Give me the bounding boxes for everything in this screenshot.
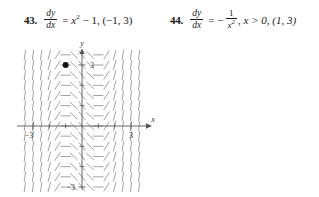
x-tick-label-neg3: −3: [25, 131, 34, 140]
derivative-denominator: dx: [190, 20, 203, 30]
problem-44-number: 44.: [170, 14, 183, 26]
fraction-denominator: x2: [226, 19, 238, 30]
point-value-label: 3: [90, 61, 94, 70]
y-tick-label-neg3: −3: [66, 183, 75, 192]
exponent: 2: [232, 18, 236, 26]
problem-43-number: 43.: [24, 14, 37, 26]
derivative-denominator: dx: [44, 20, 57, 30]
reciprocal-fraction: 1 x2: [226, 9, 238, 30]
problem-44: 44. dy dx = − 1 x2 , x > 0, (1, 3): [158, 0, 319, 197]
equals-sign: =: [62, 14, 68, 26]
derivative-fraction: dy dx: [190, 9, 203, 30]
initial-condition-point: [63, 62, 69, 68]
x-tick-label-3: 3: [129, 131, 133, 140]
x-axis-label: x: [150, 115, 155, 124]
derivative-numerator: dy: [44, 9, 57, 19]
right-hand-side: x2 − 1, (−1, 3): [71, 13, 132, 26]
equals-sign: =: [208, 14, 214, 26]
problem-44-statement: 44. dy dx = − 1 x2 , x > 0, (1, 3): [158, 9, 319, 30]
slope-field-graph-43: −3 3 −3 3 x y: [8, 42, 156, 194]
y-axis-arrow: [79, 49, 84, 55]
slope-field-svg-43: −3 3 −3 3 x y: [8, 42, 156, 194]
derivative-fraction: dy dx: [44, 9, 57, 30]
fraction-numerator: 1: [227, 9, 236, 18]
problem-43: 43. dy dx = x2 − 1, (−1, 3): [0, 0, 158, 197]
rhs-remainder: , x > 0, (1, 3): [238, 14, 296, 26]
y-axis-label: y: [79, 42, 84, 48]
textbook-exercise-page: 43. dy dx = x2 − 1, (−1, 3): [0, 0, 319, 197]
derivative-numerator: dy: [190, 9, 203, 19]
x-axis-arrow: [146, 123, 152, 128]
negative-sign: −: [217, 14, 223, 26]
problem-43-statement: 43. dy dx = x2 − 1, (−1, 3): [0, 9, 182, 30]
rhs-remainder: − 1, (−1, 3): [80, 14, 133, 26]
